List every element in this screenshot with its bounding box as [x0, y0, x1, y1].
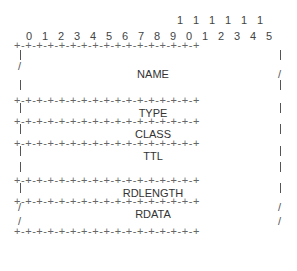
name-right-pipe-2: [280, 80, 281, 90]
field-label-name: NAME: [20, 68, 286, 80]
bit-11: 1: [200, 30, 210, 42]
name-left-pipe-2: [20, 80, 21, 90]
field-label-class: CLASS: [20, 128, 286, 140]
bit-tens-15: 1: [255, 14, 265, 26]
field-label-rdata: RDATA: [20, 208, 286, 220]
dns-resource-record-diagram: 1 1 1 1 1 1 0 1 2 3 4 5 6 7 8 9 0 1 2 3 …: [0, 0, 297, 271]
bit-tens-13: 1: [223, 14, 233, 26]
bit-15: 5: [264, 30, 274, 42]
ttl-left-pipe-2: [20, 162, 21, 172]
name-left-pipe: [20, 50, 21, 60]
bit-14: 4: [248, 30, 258, 42]
bit-tens-11: 1: [191, 14, 201, 26]
separator-bottom: +-+-+-+-+-+-+-+-+-+-+-+-+-+-+-+-+: [14, 225, 200, 237]
field-label-ttl: TTL: [20, 150, 286, 162]
separator-ttl-rdlength: +-+-+-+-+-+-+-+-+-+-+-+-+-+-+-+-+: [14, 174, 200, 186]
bit-tens-12: 1: [207, 14, 217, 26]
bit-tens-14: 1: [239, 14, 249, 26]
separator-top: +-+-+-+-+-+-+-+-+-+-+-+-+-+-+-+-+: [14, 39, 200, 51]
field-label-rdlength: RDLENGTH: [20, 187, 286, 199]
separator-name-type: +-+-+-+-+-+-+-+-+-+-+-+-+-+-+-+-+: [14, 94, 200, 106]
bit-tens-10: 1: [175, 14, 185, 26]
ttl-right-pipe-2: [280, 162, 281, 172]
name-right-pipe: [280, 50, 281, 60]
bit-13: 3: [232, 30, 242, 42]
field-label-type: TYPE: [20, 107, 286, 119]
bit-12: 2: [216, 30, 226, 42]
